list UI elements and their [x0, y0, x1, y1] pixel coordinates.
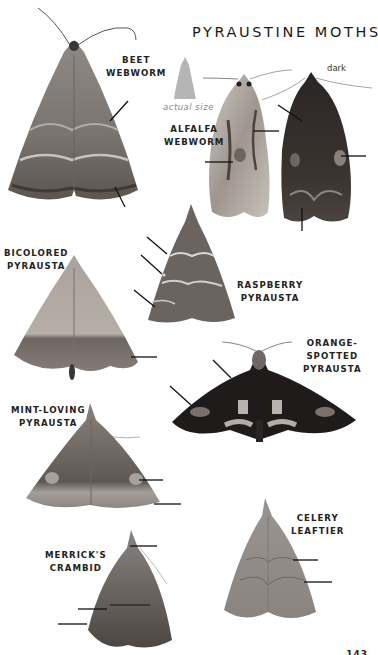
pointer-arrow	[141, 255, 162, 274]
pointer-arrow	[110, 101, 128, 121]
bicolored-pyrausta-illustration	[14, 255, 138, 380]
field-guide-page: PYRAUSTINE MOTHS actual size dark BEET W…	[0, 0, 378, 655]
raspberry-pyrausta-illustration	[148, 204, 235, 323]
alfalfa-webworm-dark-illustration	[262, 72, 372, 222]
beet-webworm-illustration	[8, 8, 138, 199]
actual-size-silhouette	[174, 57, 196, 99]
species-label-celery-leaftier: CELERY LEAFTIER	[291, 512, 344, 538]
species-label-orange-spotted-pyrausta: ORANGE- SPOTTED PYRAUSTA	[303, 337, 362, 376]
page-number: 143	[346, 649, 368, 655]
pointer-arrow	[147, 237, 167, 254]
species-label-alfalfa-webworm: ALFALFA WEBWORM	[164, 123, 224, 149]
species-label-beet-webworm: BEET WEBWORM	[106, 54, 166, 80]
variant-label-dark: dark	[327, 63, 346, 73]
pointer-arrow	[213, 360, 231, 378]
pointer-arrow	[134, 290, 155, 307]
pointer-arrow	[170, 386, 191, 405]
actual-size-caption: actual size	[163, 102, 214, 112]
species-label-mint-loving-pyrausta: MINT-LOVING PYRAUSTA	[11, 404, 85, 430]
page-title: PYRAUSTINE MOTHS	[192, 24, 378, 40]
species-label-merricks-crambid: MERRICK'S CRAMBID	[45, 549, 107, 575]
species-label-raspberry-pyrausta: RASPBERRY PYRAUSTA	[237, 279, 303, 305]
species-label-bicolored-pyrausta: BICOLORED PYRAUSTA	[4, 247, 68, 273]
merricks-crambid-illustration	[88, 530, 172, 648]
